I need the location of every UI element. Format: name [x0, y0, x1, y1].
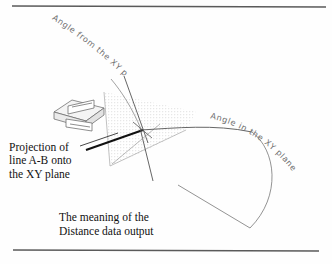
figure-caption: The meaning of the Distance data output	[59, 211, 154, 239]
technical-diagram: Angle from the XY plane Angle in the XY …	[0, 0, 332, 264]
bottom-rule	[13, 250, 319, 251]
figure-caption-line1: The meaning of the	[59, 211, 154, 225]
projection-caption-line3: the XY plane	[9, 168, 72, 181]
angle-sweep-chord	[178, 185, 250, 228]
top-rule	[12, 6, 326, 7]
sensor-device	[54, 100, 104, 131]
label-angle-in-xy-plane: Angle in the XY plane	[210, 111, 300, 174]
projection-caption: Projection of line A-B onto the XY plane	[9, 141, 72, 181]
projection-caption-line2: line A-B onto	[9, 154, 72, 167]
figure-caption-line2: Distance data output	[59, 225, 154, 239]
figure-canvas: Angle from the XY plane Angle in the XY …	[0, 0, 332, 264]
projection-caption-line1: Projection of	[9, 141, 72, 154]
label-angle-from-xy-plane: Angle from the XY plane	[0, 0, 131, 78]
